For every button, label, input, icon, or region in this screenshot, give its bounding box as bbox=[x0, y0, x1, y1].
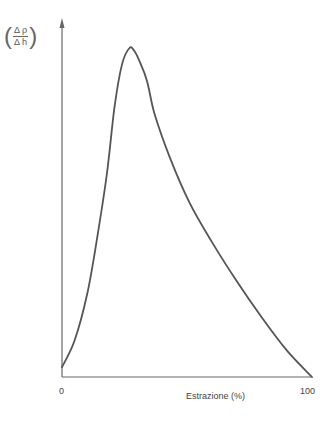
x-tick-0: 0 bbox=[59, 386, 64, 396]
x-axis-title: Estrazione (%) bbox=[186, 391, 245, 401]
y-axis-arrow-icon bbox=[60, 18, 65, 28]
x-tick-100: 100 bbox=[300, 386, 315, 396]
right-paren: ) bbox=[29, 24, 37, 48]
y-denominator: Δ h bbox=[14, 37, 27, 48]
y-axis-label: ( Δ ρ Δ h ) bbox=[4, 24, 37, 48]
y-fraction: Δ ρ Δ h bbox=[13, 25, 28, 48]
y-numerator: Δ ρ bbox=[13, 25, 28, 37]
left-paren: ( bbox=[4, 24, 12, 48]
distribution-curve bbox=[62, 47, 312, 377]
chart-canvas bbox=[0, 0, 334, 421]
